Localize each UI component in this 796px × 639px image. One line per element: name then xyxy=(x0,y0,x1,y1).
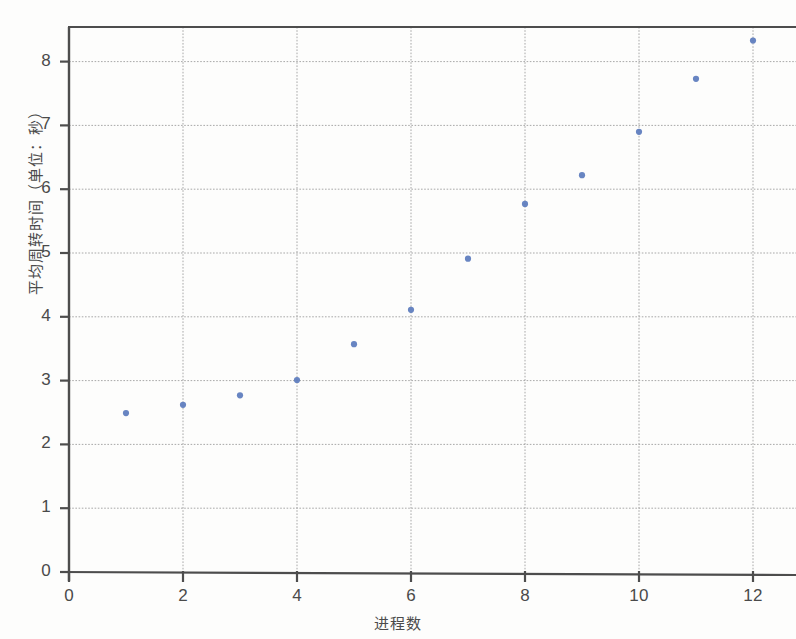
x-tick-label: 0 xyxy=(49,586,89,606)
x-axis-line xyxy=(60,572,796,575)
data-point xyxy=(465,256,471,262)
y-tick-label: 2 xyxy=(25,433,51,453)
x-tick-label: 4 xyxy=(277,586,317,606)
data-point xyxy=(636,129,642,135)
x-tick-label: 6 xyxy=(391,586,431,606)
y-axis-title: 平均周转时间（单位：秒） xyxy=(24,0,45,399)
x-tick-label: 12 xyxy=(733,586,773,606)
data-point xyxy=(123,410,129,416)
x-axis-title: 进程数 xyxy=(0,612,796,633)
scatter-plot-canvas xyxy=(0,0,796,639)
x-tick-label: 2 xyxy=(163,586,203,606)
data-point xyxy=(351,341,357,347)
data-point xyxy=(180,402,186,408)
axis-ticks xyxy=(60,62,753,582)
y-tick-label: 1 xyxy=(25,497,51,517)
data-point xyxy=(522,201,528,207)
axis-spines xyxy=(60,27,796,581)
chart-figure: 012345678024681012 进程数 平均周转时间（单位：秒） xyxy=(0,0,796,639)
data-point xyxy=(408,307,414,313)
data-point-group xyxy=(123,37,756,416)
data-point xyxy=(693,76,699,82)
gridlines xyxy=(69,27,796,572)
x-tick-label: 10 xyxy=(619,586,659,606)
data-point xyxy=(750,37,756,43)
data-point xyxy=(579,172,585,178)
data-point xyxy=(294,377,300,383)
data-point xyxy=(237,392,243,398)
y-tick-label: 0 xyxy=(25,561,51,581)
x-tick-label: 8 xyxy=(505,586,545,606)
